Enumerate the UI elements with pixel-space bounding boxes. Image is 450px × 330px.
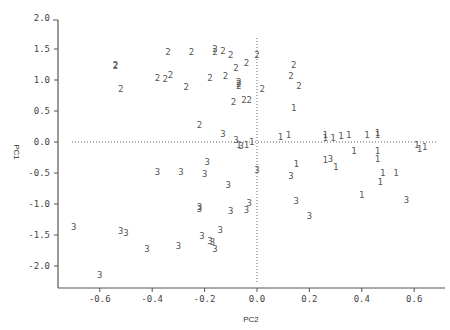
y-tick-label: 1.5 xyxy=(34,44,50,54)
data-point-group-3: 3 xyxy=(239,141,244,151)
data-point-group-1: 1 xyxy=(375,154,380,164)
data-point-group-1: 1 xyxy=(333,162,338,172)
data-point-group-1: 1 xyxy=(294,159,299,169)
data-point-group-1: 1 xyxy=(346,130,351,140)
data-point-group-1: 1 xyxy=(393,168,398,178)
data-point-group-2: 2 xyxy=(207,73,212,83)
data-point-group-1: 1 xyxy=(351,146,356,156)
data-point-group-2: 2 xyxy=(231,97,236,107)
data-point-group-1: 1 xyxy=(291,103,296,113)
data-point-group-2: 2 xyxy=(212,47,217,57)
data-point-group-2: 2 xyxy=(189,47,194,57)
x-tick-label: 0.6 xyxy=(406,294,422,304)
data-point-group-3: 3 xyxy=(210,237,215,247)
data-point-group-2: 2 xyxy=(254,50,259,60)
data-point-group-3: 3 xyxy=(404,195,409,205)
y-tick-label: -1.5 xyxy=(28,230,50,240)
data-point-group-3: 3 xyxy=(233,135,238,145)
data-point-group-1: 1 xyxy=(249,137,254,147)
data-point-group-2: 2 xyxy=(220,46,225,56)
y-tick-label: -1.0 xyxy=(28,199,50,209)
x-tick-label: -0.4 xyxy=(141,294,163,304)
data-point-group-2: 2 xyxy=(113,61,118,71)
data-point-group-2: 2 xyxy=(296,81,301,91)
x-tick-label: -0.2 xyxy=(194,294,216,304)
data-point-group-1: 1 xyxy=(377,177,382,187)
x-axis-title: PC2 xyxy=(243,315,259,324)
data-point-group-3: 3 xyxy=(218,225,223,235)
y-tick-label: 1.0 xyxy=(34,75,50,85)
data-point-group-3: 3 xyxy=(294,196,299,206)
data-point-group-2: 2 xyxy=(223,71,228,81)
x-tick-label: 0.0 xyxy=(249,294,265,304)
data-point-group-2: 2 xyxy=(246,95,251,105)
y-tick-label: 0.0 xyxy=(34,137,50,147)
data-point-group-2: 2 xyxy=(244,58,249,68)
data-point-group-2: 2 xyxy=(233,63,238,73)
data-point-group-2: 2 xyxy=(155,73,160,83)
data-points: 1111111111111111111111111112222222222222… xyxy=(71,44,428,280)
data-point-group-3: 3 xyxy=(288,171,293,181)
y-tick-label: 2.0 xyxy=(34,13,50,23)
data-point-group-3: 3 xyxy=(225,180,230,190)
data-point-group-3: 3 xyxy=(123,228,128,238)
data-point-group-3: 3 xyxy=(71,222,76,232)
data-point-group-3: 3 xyxy=(176,241,181,251)
y-tick-label: -0.5 xyxy=(28,168,50,178)
data-point-group-1: 1 xyxy=(359,190,364,200)
y-tick-label: 0.5 xyxy=(34,106,50,116)
data-point-group-3: 3 xyxy=(197,204,202,214)
x-axis-ticks: -0.6-0.4-0.20.00.20.40.6 xyxy=(89,288,422,304)
data-point-group-1: 1 xyxy=(330,133,335,143)
x-tick-label: -0.6 xyxy=(89,294,111,304)
data-point-group-2: 2 xyxy=(197,120,202,130)
data-point-group-2: 2 xyxy=(163,74,168,84)
data-point-group-3: 3 xyxy=(155,167,160,177)
y-tick-label: -2.0 xyxy=(28,261,50,271)
y-axis-ticks: 2.01.51.00.50.0-0.5-1.0-1.5-2.0 xyxy=(28,13,58,271)
data-point-group-3: 3 xyxy=(205,157,210,167)
data-point-group-1: 1 xyxy=(322,133,327,143)
data-point-group-3: 3 xyxy=(307,211,312,221)
data-point-group-2: 2 xyxy=(184,82,189,92)
data-point-group-1: 1 xyxy=(422,142,427,152)
y-axis-title: PC1 xyxy=(12,144,21,160)
pca-scatter-plot: 2.01.51.00.50.0-0.5-1.0-1.5-2.0 -0.6-0.4… xyxy=(0,0,450,330)
data-point-group-2: 2 xyxy=(165,47,170,57)
data-point-group-1: 1 xyxy=(338,131,343,141)
x-tick-label: 0.4 xyxy=(354,294,370,304)
data-point-group-3: 3 xyxy=(254,165,259,175)
data-point-group-3: 3 xyxy=(97,270,102,280)
data-point-group-3: 3 xyxy=(178,167,183,177)
data-point-group-3: 3 xyxy=(199,231,204,241)
data-point-group-1: 1 xyxy=(286,130,291,140)
data-point-group-3: 3 xyxy=(328,154,333,164)
data-point-group-3: 3 xyxy=(246,198,251,208)
data-point-group-2: 2 xyxy=(168,70,173,80)
data-point-group-3: 3 xyxy=(220,129,225,139)
data-point-group-3: 3 xyxy=(202,169,207,179)
data-point-group-1: 1 xyxy=(375,128,380,138)
data-point-group-2: 2 xyxy=(288,71,293,81)
data-point-group-2: 2 xyxy=(260,84,265,94)
x-tick-label: 0.2 xyxy=(301,294,317,304)
data-point-group-1: 1 xyxy=(364,130,369,140)
data-point-group-1: 1 xyxy=(278,132,283,142)
data-point-group-3: 3 xyxy=(144,244,149,254)
data-point-group-3: 3 xyxy=(228,206,233,216)
reference-lines xyxy=(72,38,438,284)
data-point-group-2: 2 xyxy=(228,50,233,60)
data-point-group-2: 2 xyxy=(291,60,296,70)
data-point-group-2: 2 xyxy=(118,84,123,94)
data-point-group-2: 2 xyxy=(236,81,241,91)
